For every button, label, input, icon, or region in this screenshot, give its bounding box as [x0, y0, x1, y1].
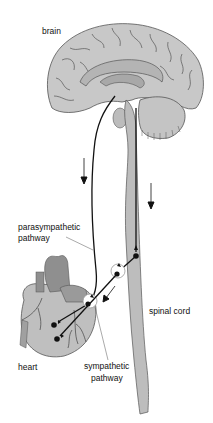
- ganglion-arrow-icon: [103, 286, 115, 302]
- sympathetic-label-line2: pathway: [91, 373, 123, 383]
- parasympathetic-label-line1: parasympathetic: [18, 222, 80, 232]
- sympathetic-arrow-icon: [148, 183, 154, 209]
- parasympathetic-label-line2: pathway: [18, 233, 50, 243]
- sympathetic-label-line1: sympathetic: [84, 361, 129, 371]
- parasympathetic-arrow-icon: [81, 158, 87, 184]
- sympathetic-leader-line: [95, 307, 108, 360]
- heart-label: heart: [18, 362, 37, 372]
- brain-label: brain: [42, 26, 61, 36]
- diagram-canvas: [0, 0, 213, 423]
- parasympathetic-leader-line: [66, 237, 93, 250]
- spinal-cord-label: spinal cord: [149, 306, 190, 316]
